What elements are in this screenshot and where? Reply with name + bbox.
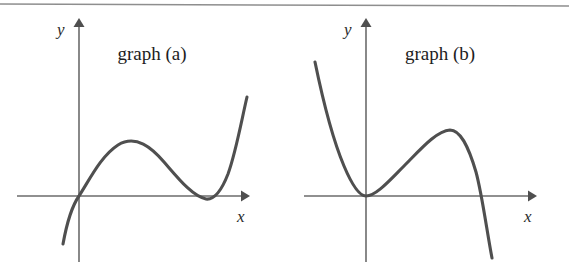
y-axis-arrowhead-b <box>361 18 372 27</box>
top-divider-rule <box>0 4 569 6</box>
x-axis-arrowhead-b <box>528 191 537 202</box>
graph-panel-b: y x graph (b) <box>304 18 537 262</box>
y-axis-label-b: y <box>342 20 352 39</box>
cubic-curve-a <box>63 97 247 244</box>
graph-caption-b: graph (b) <box>405 43 475 65</box>
x-axis-label-b: x <box>523 207 532 226</box>
graph-caption-a: graph (a) <box>117 43 186 65</box>
two-cubic-graphs-figure: y x graph (a) y x graph (b) <box>0 0 569 267</box>
x-axis-label-a: x <box>236 207 245 226</box>
x-axis-arrowhead-a <box>241 191 250 202</box>
figure-page: y x graph (a) y x graph (b) <box>0 0 569 267</box>
y-axis-arrowhead-a <box>74 18 85 27</box>
cubic-curve-b <box>315 62 492 258</box>
y-axis-label-a: y <box>55 20 65 39</box>
graph-panel-a: y x graph (a) <box>17 18 250 262</box>
